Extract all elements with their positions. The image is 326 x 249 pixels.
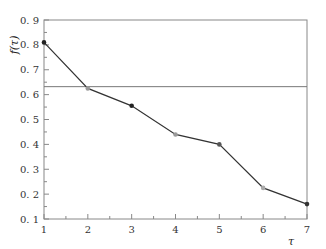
y-tick-label: 0. 2 (20, 189, 39, 200)
x-tick-label: 3 (128, 224, 134, 235)
x-tick-label: 7 (304, 224, 310, 235)
data-point-marker (217, 142, 222, 147)
y-axis-label: f(τ) (8, 36, 21, 56)
plot-area: 0. 10. 20. 30. 40. 50. 60. 70. 80. 91234… (0, 0, 326, 249)
x-axis-label: τ (288, 235, 295, 248)
data-point-marker (173, 132, 178, 137)
y-tick-label: 0. 7 (20, 64, 39, 75)
y-tick-label: 0. 3 (20, 164, 39, 175)
data-point-marker (129, 104, 134, 109)
data-point-marker (86, 86, 91, 91)
y-tick-label: 0. 8 (20, 39, 39, 50)
y-tick-label: 0. 4 (20, 139, 39, 150)
y-tick-label: 0. 9 (20, 15, 39, 26)
data-point-marker (305, 202, 310, 207)
line-chart: 0. 10. 20. 30. 40. 50. 60. 70. 80. 91234… (0, 0, 326, 249)
y-tick-label: 0. 5 (20, 114, 39, 125)
x-tick-label: 2 (85, 224, 91, 235)
x-tick-label: 4 (172, 224, 178, 235)
y-tick-label: 0. 1 (20, 214, 39, 225)
x-tick-label: 6 (260, 224, 266, 235)
y-tick-label: 0. 6 (20, 89, 39, 100)
data-point-marker (261, 186, 266, 191)
data-line (44, 42, 307, 204)
x-tick-label: 1 (41, 224, 47, 235)
data-point-marker (42, 40, 47, 45)
x-tick-label: 5 (216, 224, 222, 235)
